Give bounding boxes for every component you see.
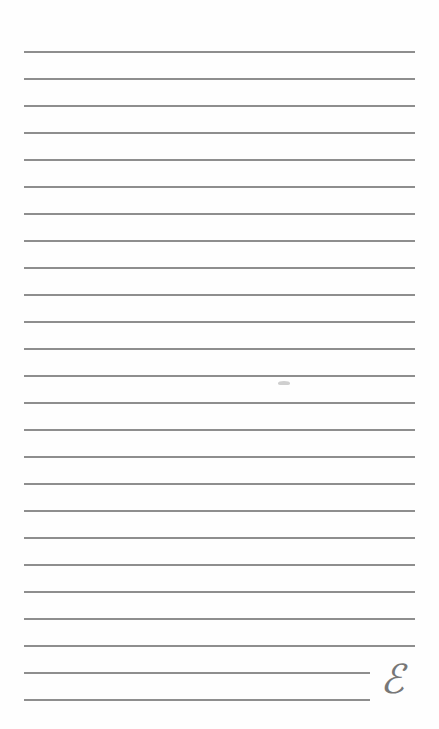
ruled-line — [24, 429, 415, 431]
ruled-line — [24, 699, 370, 701]
ruled-line — [24, 618, 415, 620]
monogram-e-icon: ℰ — [370, 656, 414, 702]
ruled-line — [24, 672, 370, 674]
paper-smudge — [278, 381, 290, 385]
notepaper-page: ℰ — [0, 0, 439, 729]
ruled-line — [24, 159, 415, 161]
ruled-line — [24, 132, 415, 134]
ruled-line — [24, 105, 415, 107]
ruled-line — [24, 51, 415, 53]
ruled-line — [24, 375, 415, 377]
ruled-line — [24, 348, 415, 350]
ruled-line — [24, 537, 415, 539]
ruled-line — [24, 78, 415, 80]
ruled-line — [24, 240, 415, 242]
ruled-line — [24, 294, 415, 296]
ruled-line — [24, 483, 415, 485]
ruled-line — [24, 321, 415, 323]
ruled-line — [24, 267, 415, 269]
ruled-line — [24, 456, 415, 458]
ruled-line — [24, 402, 415, 404]
ruled-line — [24, 213, 415, 215]
ruled-line — [24, 591, 415, 593]
ruled-line — [24, 645, 415, 647]
ruled-line — [24, 510, 415, 512]
ruled-line — [24, 186, 415, 188]
ruled-line — [24, 564, 415, 566]
